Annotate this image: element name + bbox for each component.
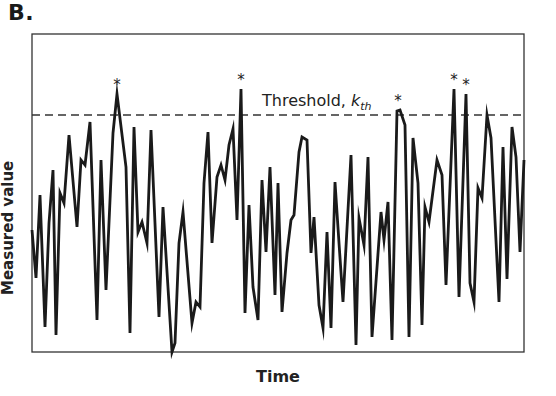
asterisk-marker: * bbox=[394, 92, 402, 110]
x-axis-label: Time bbox=[228, 367, 328, 386]
asterisk-marker: * bbox=[113, 76, 121, 94]
y-axis-label: Measured value bbox=[0, 175, 17, 295]
asterisk-marker: * bbox=[450, 71, 458, 89]
asterisk-marker: * bbox=[237, 71, 245, 89]
line-chart: Threshold, kth ***** bbox=[0, 0, 556, 396]
threshold-label: Threshold, kth bbox=[261, 91, 372, 113]
measured-value-line bbox=[32, 89, 524, 352]
threshold-subscript: th bbox=[360, 100, 371, 113]
asterisk-marker: * bbox=[462, 76, 470, 94]
threshold-label-text: Threshold, bbox=[261, 91, 351, 110]
